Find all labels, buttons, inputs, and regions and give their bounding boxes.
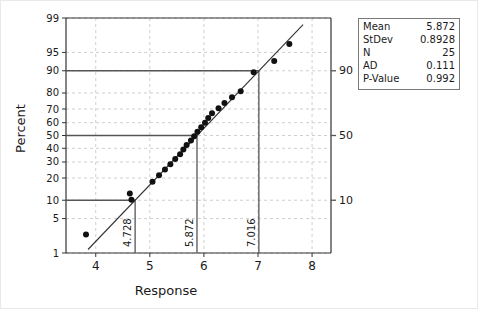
y-axis-tick-label: 99 [46, 13, 59, 24]
data-point [271, 58, 277, 64]
data-point [150, 179, 156, 185]
statistics-value: 0.8928 [410, 34, 455, 47]
statistics-key: P-Value [363, 73, 410, 86]
data-point [156, 172, 162, 178]
x-axis-tick-label: 4 [92, 259, 100, 273]
y-axis-tick-label: 40 [46, 143, 59, 154]
data-point [229, 94, 235, 100]
y-axis-tick-label: 5 [53, 213, 59, 224]
data-point [127, 191, 133, 197]
statistics-value: 0.111 [410, 60, 455, 73]
statistics-row: N25 [363, 47, 455, 60]
y-axis-tick-label: 60 [46, 117, 59, 128]
statistics-value: 5.872 [410, 21, 455, 34]
y-axis-tick-label: 90 [46, 65, 59, 76]
x-axis-tick-label: 7 [254, 259, 262, 273]
reference-line-label: 4.728 [122, 218, 133, 247]
statistics-table: Mean5.872StDev0.8928N25AD0.111P-Value0.9… [363, 21, 455, 86]
statistics-box: Mean5.872StDev0.8928N25AD0.111P-Value0.9… [358, 18, 460, 90]
y-axis-tick-label: 20 [46, 173, 59, 184]
statistics-key: StDev [363, 34, 410, 47]
statistics-key: Mean [363, 21, 410, 34]
statistics-value: 25 [410, 47, 455, 60]
x-axis-tick-label: 5 [146, 259, 154, 273]
y-axis-tick-label: 80 [46, 87, 59, 98]
right-axis-label: 90 [339, 64, 353, 77]
y-axis-title: Percent [13, 89, 28, 169]
probability-plot-figure: 151020304050607080909599456784.7285.8727… [0, 0, 478, 309]
statistics-row: Mean5.872 [363, 21, 455, 34]
y-axis-tick-label: 50 [46, 130, 59, 141]
data-point [83, 231, 89, 237]
x-axis-title: Response [1, 283, 331, 298]
y-axis-tick-label: 1 [53, 248, 59, 259]
data-point [128, 197, 134, 203]
right-axis-label: 50 [339, 129, 353, 142]
data-point [251, 69, 257, 75]
data-point [184, 142, 190, 148]
data-point [205, 115, 211, 121]
x-axis-tick-label: 8 [308, 259, 316, 273]
statistics-row: StDev0.8928 [363, 34, 455, 47]
data-point [221, 100, 227, 106]
statistics-value: 0.992 [410, 73, 455, 86]
data-point [162, 167, 168, 173]
data-point [238, 88, 244, 94]
reference-line-label: 7.016 [246, 218, 257, 247]
right-axis-label: 10 [339, 194, 353, 207]
y-axis-tick-label: 70 [46, 104, 59, 115]
y-axis-tick-label: 95 [46, 47, 59, 58]
y-axis-tick-label: 30 [46, 156, 59, 167]
x-axis-tick-label: 6 [200, 259, 208, 273]
statistics-row: P-Value0.992 [363, 73, 455, 86]
statistics-key: N [363, 47, 410, 60]
statistics-key: AD [363, 60, 410, 73]
data-point [167, 161, 173, 167]
statistics-row: AD0.111 [363, 60, 455, 73]
data-point [286, 41, 292, 47]
reference-line-label: 5.872 [184, 218, 195, 247]
data-point [216, 105, 222, 111]
y-axis-tick-label: 10 [46, 195, 59, 206]
data-point [209, 110, 215, 116]
data-point [172, 156, 178, 162]
